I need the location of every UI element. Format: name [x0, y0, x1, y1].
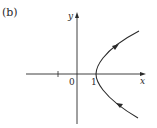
diagram: (b) x y 0 1 — [0, 0, 157, 128]
vertex-label: 1 — [91, 77, 97, 87]
upper-direction-arrow — [112, 44, 119, 50]
panel-label: (b) — [2, 6, 18, 19]
x-axis-label: x — [140, 76, 145, 86]
origin-label: 0 — [69, 77, 75, 87]
y-axis-label: y — [67, 11, 74, 21]
y-axis-arrowhead — [75, 12, 79, 18]
curve — [96, 31, 139, 118]
